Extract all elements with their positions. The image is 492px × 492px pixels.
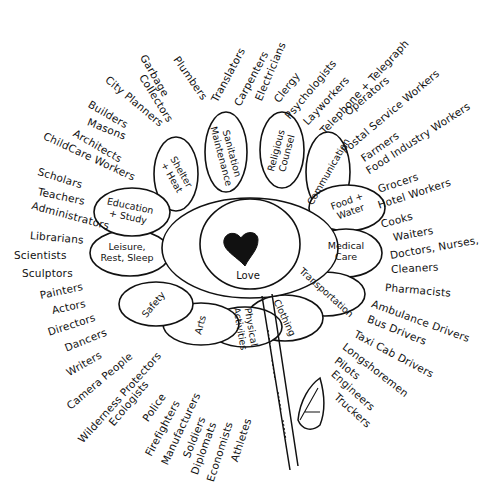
center-label-love: Love — [236, 270, 260, 281]
leaf-vein — [300, 388, 320, 420]
petal-label: Medical Care — [328, 241, 364, 263]
occupation-label: Sculptors — [22, 268, 73, 279]
occupation-label: Cleaners — [391, 262, 439, 275]
occupation-label: Scientists — [14, 250, 67, 261]
flower-diagram: Shelter + HeatSanitation MaintenanceReli… — [0, 0, 492, 492]
leaf — [298, 378, 324, 429]
petal-label: Leisure, Rest, Sleep — [100, 242, 153, 264]
